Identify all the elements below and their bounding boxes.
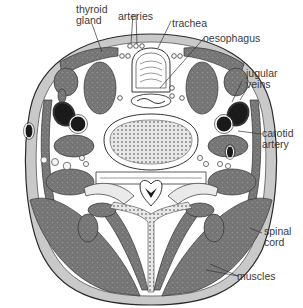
trachea bbox=[132, 48, 170, 92]
oesophagus bbox=[131, 94, 171, 108]
label-arteries: arteries bbox=[118, 11, 153, 22]
label-jugular-veins: jugular veins bbox=[246, 68, 278, 90]
label-oesophagus: oesophagus bbox=[203, 33, 260, 44]
label-muscles: muscles bbox=[237, 271, 276, 282]
neck-cross-section-diagram bbox=[0, 0, 303, 308]
label-carotid-artery: carotid artery bbox=[262, 128, 294, 150]
label-trachea: trachea bbox=[172, 18, 207, 29]
label-spinal-cord: spinal cord bbox=[264, 226, 291, 248]
label-thyroid-gland: thyroid gland bbox=[76, 4, 108, 26]
